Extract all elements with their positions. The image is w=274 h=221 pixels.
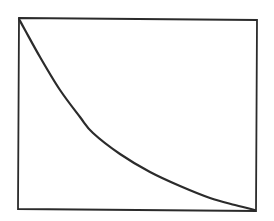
decay-curve-line — [19, 19, 255, 210]
plot-frame — [18, 18, 257, 211]
line-chart — [0, 0, 274, 221]
chart-figure — [0, 0, 274, 221]
